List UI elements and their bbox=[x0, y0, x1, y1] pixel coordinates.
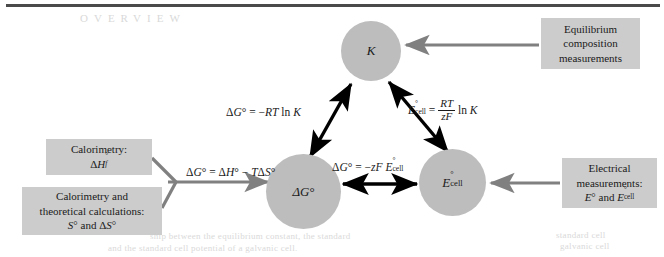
cell-potential-node: E°cellcell bbox=[419, 149, 486, 216]
calorimetry-line-1: Calorimetry: bbox=[71, 142, 127, 157]
source-box-calorimetry: Calorimetry: ΔH°ff bbox=[46, 139, 152, 175]
source-box-theoretical-calculations: Calorimetry and theoretical calculations… bbox=[22, 187, 162, 235]
equilibrium-constant-node: K bbox=[341, 21, 401, 81]
gibbs-energy-node: ΔG° bbox=[266, 154, 341, 229]
equation-gibbs-from-ecell: ΔG° = −zF E°cellcell bbox=[332, 161, 403, 173]
theoretical-line-1: Calorimetry and bbox=[56, 189, 128, 204]
electrical-line-2: measurements: bbox=[577, 176, 643, 191]
equilibrium-line-1: Equilibrium bbox=[564, 22, 617, 37]
electrical-line-1: Electrical bbox=[588, 161, 630, 176]
equation-gibbs-from-enthalpy: ΔG° = ΔH° − TΔS° bbox=[186, 166, 275, 178]
arrow-gibbs-to-k bbox=[310, 84, 351, 157]
electrical-line-3: E° and E°cellcell bbox=[585, 190, 635, 205]
calorimetry-line-2: ΔH°ff bbox=[90, 157, 107, 172]
node-gibbs-label: ΔG° bbox=[292, 184, 314, 200]
theoretical-line-2: theoretical calculations: bbox=[40, 204, 145, 219]
equilibrium-line-3: measurements bbox=[559, 51, 622, 66]
source-box-electrical-measurements: Electrical measurements: E° and E°cellce… bbox=[562, 158, 657, 208]
node-k-label: K bbox=[367, 43, 376, 59]
thermodynamic-relationship-diagram: OVERVIEW ship between the equilibrium co… bbox=[0, 0, 664, 257]
equation-gibbs-from-k: ΔG° = −RT ln K bbox=[226, 106, 301, 118]
source-box-equilibrium-composition: Equilibrium composition measurements bbox=[541, 18, 640, 69]
equation-ecell-from-k: E°cellcell = RTzF ln K bbox=[408, 99, 477, 123]
theoretical-line-3: S° and ΔS° bbox=[68, 218, 116, 233]
node-ecell-label: E°cellcell bbox=[442, 175, 462, 191]
equilibrium-line-2: composition bbox=[563, 36, 617, 51]
